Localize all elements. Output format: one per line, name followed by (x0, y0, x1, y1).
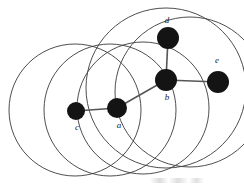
node-label-d: d (165, 15, 170, 25)
node-b[interactable] (155, 69, 177, 91)
node-e[interactable] (207, 71, 229, 93)
node-label-group: c a b d e (75, 15, 219, 132)
coverage-circle-e (115, 17, 244, 167)
node-d[interactable] (157, 27, 179, 49)
node-group (67, 27, 229, 120)
node-a[interactable] (107, 98, 127, 118)
node-label-e: e (215, 55, 219, 65)
node-c[interactable] (67, 102, 85, 120)
coverage-circle-group (9, 8, 244, 176)
node-label-c: c (75, 122, 79, 132)
node-label-a: a (117, 120, 122, 130)
figure-root: c a b d e (0, 0, 244, 189)
graph-canvas: c a b d e (0, 0, 244, 189)
edge-group (76, 38, 218, 111)
coverage-circle-b-left (77, 42, 209, 174)
node-label-b: b (165, 92, 170, 102)
